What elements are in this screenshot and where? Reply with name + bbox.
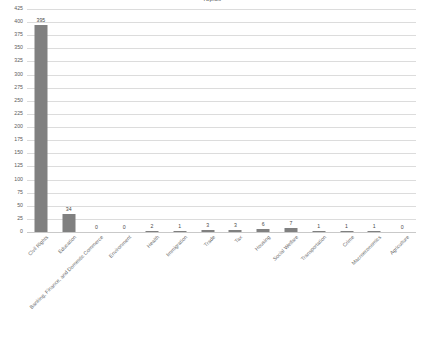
y-axis-tick-label: 300 [14,72,23,77]
y-axis-tick-label: 75 [17,190,23,195]
x-axis-label: Immigration [165,234,188,257]
bar-group[interactable]: 3 [194,9,222,232]
x-axis-labels: Civil RightsEducationBanking, Finance, a… [27,234,416,342]
x-axis-label: Trade [202,234,216,248]
x-axis-label: Agriculture [389,234,411,256]
y-axis-tick-label: 250 [14,98,23,103]
bar-group[interactable]: 395 [27,9,55,232]
bar-value-label: 1 [345,224,348,229]
bar[interactable] [173,231,186,232]
bar[interactable] [146,231,159,232]
bar-group[interactable]: 1 [305,9,333,232]
bar-group[interactable]: 0 [110,9,138,232]
bar[interactable] [312,231,325,232]
bar-value-label: 7 [290,221,293,226]
y-axis-tick-label: 400 [14,20,23,25]
x-axis-label: Civil Rights [27,234,50,257]
bar[interactable] [340,231,353,232]
bar[interactable] [34,25,47,232]
bar[interactable] [284,228,297,232]
y-axis-tick-label: 50 [17,203,23,208]
bar-value-label: 0 [95,225,98,230]
gridline [27,232,416,233]
x-axis-label: Health [145,234,160,249]
bar[interactable] [257,229,270,232]
y-axis-tick-label: 225 [14,111,23,116]
bar-group[interactable]: 3 [222,9,250,232]
y-axis-tick-label: 0 [20,229,23,234]
bar-value-label: 0 [401,225,404,230]
bar[interactable] [229,230,242,232]
bar-value-label: 3 [234,223,237,228]
bar-value-label: 1 [317,224,320,229]
x-axis-label: Social Welfare [271,234,299,262]
y-axis-tick-label: 150 [14,151,23,156]
y-axis-tick-label: 25 [17,216,23,221]
y-axis-tick-label: 350 [14,46,23,51]
bar-value-label: 3 [206,223,209,228]
bar-value-label: 2 [151,224,154,229]
bar-value-label: 0 [123,225,126,230]
bar-value-label: 6 [262,222,265,227]
y-axis-tick-label: 175 [14,138,23,143]
bar-value-label: 1 [178,224,181,229]
x-axis-label: Housing [254,234,272,252]
bar[interactable] [368,231,381,232]
x-axis-label: Education [56,234,77,255]
x-axis-label: Environment [108,234,133,259]
y-axis-tick-label: 325 [14,59,23,64]
bar-group[interactable]: 0 [388,9,416,232]
bars-layer: 39534002133671110 [27,9,416,232]
bar-group[interactable]: 6 [249,9,277,232]
bar-value-label: 395 [37,18,46,23]
bar-group[interactable]: 2 [138,9,166,232]
x-axis-label: Crime [341,234,355,248]
bar-group[interactable]: 34 [55,9,83,232]
bar-value-label: 34 [66,207,72,212]
chart-title: Topics [0,0,424,3]
x-axis-label: Tax [234,234,244,244]
y-axis-tick-label: 200 [14,124,23,129]
bar-group[interactable]: 0 [83,9,111,232]
bar[interactable] [62,214,75,232]
x-axis-label: Transportation [299,234,327,262]
bar-group[interactable]: 1 [360,9,388,232]
bar-chart: Topics 025507510012515017520022525027530… [0,0,424,344]
y-axis-tick-label: 275 [14,85,23,90]
plot-area: 0255075100125150175200225250275300325350… [27,9,416,232]
bar-group[interactable]: 1 [333,9,361,232]
y-axis-tick-label: 375 [14,33,23,38]
bar-value-label: 1 [373,224,376,229]
bar-group[interactable]: 7 [277,9,305,232]
y-axis-tick-label: 125 [14,164,23,169]
x-axis-label: Macroeconomics [351,234,383,266]
bar-group[interactable]: 1 [166,9,194,232]
y-axis-tick-label: 100 [14,177,23,182]
y-axis-tick-label: 425 [14,6,23,11]
bar[interactable] [201,230,214,232]
